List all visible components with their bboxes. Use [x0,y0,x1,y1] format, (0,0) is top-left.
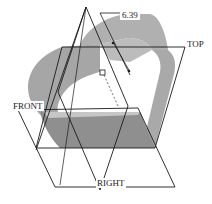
sheet-metal-part[interactable] [28,14,175,148]
dimension-value[interactable]: 6.39 [120,10,140,20]
cad-viewport[interactable]: 6.39 TOP FRONT RIGHT [0,0,212,204]
constraint-symbol-icon [100,70,105,75]
datum-label-front[interactable]: FRONT [12,101,44,111]
datum-label-top[interactable]: TOP [186,39,205,49]
datum-label-right[interactable]: RIGHT [96,178,126,188]
